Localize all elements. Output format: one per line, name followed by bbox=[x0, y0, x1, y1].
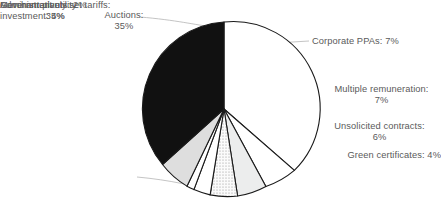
pie-label-administratively-set-tariffs: Administratively set tariffs: 35% bbox=[0, 0, 111, 23]
pie-label-corporate-ppas: Corporate PPAs: 7% bbox=[312, 36, 440, 47]
pie-chart-figure: Auctions: 35% Corporate PPAs: 7% Multipl… bbox=[0, 0, 441, 211]
pie-label-unsolicited-contracts: Unsolicited contracts: 6% bbox=[318, 121, 441, 144]
pie-slices bbox=[142, 22, 320, 197]
pie-label-multiple-remuneration: Multiple remuneration: 7% bbox=[322, 84, 441, 107]
pie-label-green-certificates: Green certificates: 4% bbox=[290, 150, 441, 161]
